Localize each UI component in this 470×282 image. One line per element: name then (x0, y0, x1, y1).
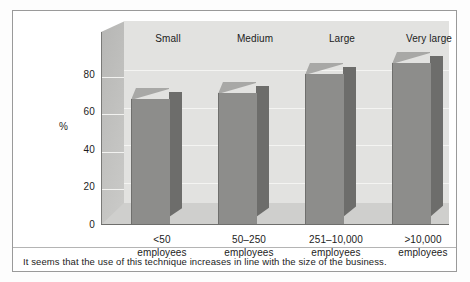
y-axis-title: % (59, 121, 68, 132)
x-label-under-50-line1: <50 (119, 233, 205, 246)
y-axis-line (101, 32, 102, 225)
figure-caption: It seems that the use of this technique … (23, 256, 447, 267)
bar-medium[interactable] (218, 93, 256, 224)
y-tick-label-60: 60 (69, 106, 95, 117)
bar-medium-side (256, 86, 269, 217)
left-wall-tick-60 (101, 114, 125, 115)
page-root: % 80 60 40 20 0 (0, 0, 470, 282)
bar-large-face (305, 74, 344, 224)
left-wall-tick-40 (101, 152, 125, 153)
x-label-over-10000-line1: >10,000 (380, 233, 466, 246)
column-header-very-large: Very large (384, 33, 470, 44)
x-axis-line (101, 224, 449, 225)
caption-divider (13, 247, 456, 248)
plot-area (101, 21, 449, 231)
bar-very-large-face (392, 63, 431, 224)
bar-small-face (131, 99, 170, 224)
bar-small-side (169, 92, 182, 217)
column-header-large: Large (299, 33, 385, 44)
x-label-251-10000-line1: 251–10,000 (293, 233, 379, 246)
left-wall-tick-20 (101, 189, 125, 190)
bar-very-large[interactable] (392, 63, 430, 224)
bar-chart: % 80 60 40 20 0 (13, 11, 456, 241)
y-tick-label-20: 20 (69, 181, 95, 192)
plot-left-wall (101, 21, 125, 225)
bar-large-side (343, 67, 356, 217)
bar-large[interactable] (305, 74, 343, 224)
left-wall-tick-80 (101, 77, 125, 78)
bar-very-large-side (430, 56, 443, 217)
column-header-medium: Medium (212, 33, 298, 44)
bar-small[interactable] (131, 99, 169, 224)
column-header-small: Small (125, 33, 211, 44)
x-label-50-250-line1: 50–250 (206, 233, 292, 246)
y-tick-label-80: 80 (69, 69, 95, 80)
figure-frame: % 80 60 40 20 0 (12, 10, 457, 272)
bar-medium-face (218, 93, 257, 224)
y-tick-label-0: 0 (69, 219, 95, 230)
y-tick-label-40: 40 (69, 144, 95, 155)
